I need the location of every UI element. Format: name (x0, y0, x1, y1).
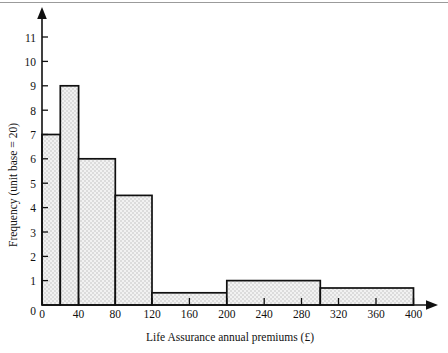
x-tick-label-160: 160 (181, 308, 199, 320)
x-axis-title: Life Assurance annual premiums (£) (146, 331, 314, 344)
x-tick-label-280: 280 (293, 308, 311, 320)
y-tick-label-5: 5 (30, 178, 36, 190)
y-tick-label-4: 4 (30, 202, 36, 214)
y-tick-label-10: 10 (25, 56, 37, 68)
x-axis-arrowhead (426, 300, 438, 310)
histogram-figure: 11 10 9 8 7 6 5 4 3 2 1 0 (0, 0, 448, 353)
y-tick-label-7: 7 (30, 129, 36, 141)
x-tick-label-200: 200 (218, 308, 236, 320)
x-tick-label-400: 400 (405, 308, 423, 320)
y-tick-label-2: 2 (30, 251, 36, 263)
x-tick-label-360: 360 (367, 308, 385, 320)
bar-0-20 (42, 135, 60, 306)
y-tick-label-8: 8 (30, 105, 36, 117)
bars-group (42, 86, 414, 305)
y-tick-label-11: 11 (25, 32, 36, 44)
bar-40-80 (79, 159, 116, 305)
x-tick-label-40: 40 (73, 308, 85, 320)
y-axis-arrowhead (37, 7, 47, 19)
y-tick-label-9: 9 (30, 80, 36, 92)
y-tick-label-1: 1 (30, 275, 36, 287)
histogram-svg: 11 10 9 8 7 6 5 4 3 2 1 0 (0, 0, 448, 353)
x-tick-label-0: 0 (39, 308, 45, 320)
x-tick-label-80: 80 (110, 308, 122, 320)
x-tick-label-240: 240 (256, 308, 274, 320)
bar-300-400 (320, 288, 413, 305)
y-tick-label-0: 0 (30, 305, 36, 317)
y-axis-title: Frequency (unit base = 20) (7, 123, 20, 247)
bar-200-300 (227, 281, 320, 305)
y-tick-label-6: 6 (30, 153, 36, 165)
y-tick-label-3: 3 (30, 227, 36, 239)
x-tick-label-120: 120 (143, 308, 161, 320)
bar-20-40 (60, 86, 78, 305)
bar-80-120 (115, 195, 152, 305)
x-tick-label-320: 320 (330, 308, 348, 320)
